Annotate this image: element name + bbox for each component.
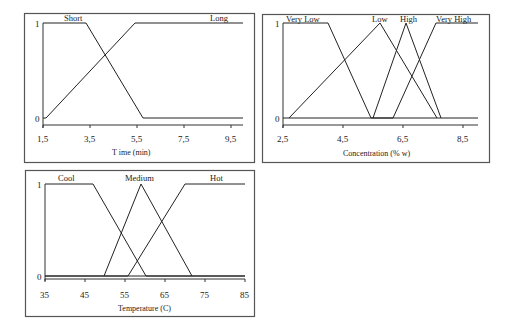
chart-temperature-xtick-label: 45 — [80, 290, 90, 300]
series-very-low — [283, 23, 478, 118]
chart-time-xtick-label: 9,5 — [225, 134, 237, 144]
chart-time-ytick-0: 0 — [35, 114, 40, 124]
chart-temperature-frame — [26, 171, 255, 317]
series-short — [43, 23, 243, 118]
chart-concentration-frame — [263, 15, 490, 163]
label-hot: Hot — [210, 173, 223, 183]
chart-concentration: 1 0 2,5 4,5 6,5 8,5 Concentration (% w) … — [263, 14, 490, 163]
chart-temperature-xtick-label: 85 — [240, 290, 250, 300]
chart-concentration-ytick-0: 0 — [275, 114, 280, 124]
chart-concentration-ytick-1: 1 — [275, 19, 280, 29]
chart-temperature-ytick-1: 1 — [37, 180, 42, 190]
label-medium: Medium — [125, 173, 154, 183]
series-hot — [45, 184, 245, 276]
chart-time-ytick-1: 1 — [35, 19, 40, 29]
chart-temperature-xtick-label: 65 — [160, 290, 170, 300]
chart-temperature-xtick-label: 75 — [200, 290, 210, 300]
series-very-high — [283, 23, 478, 118]
chart-time-xtick-label: 1,5 — [37, 134, 49, 144]
chart-temperature: 1 0 35 45 55 65 75 85 Temperature (C) Co… — [26, 171, 255, 317]
chart-temperature-xtick-label: 55 — [120, 290, 130, 300]
series-medium — [104, 184, 192, 276]
chart-concentration-xlabel: Concentration (% w) — [343, 149, 410, 158]
chart-temperature-xtick-label: 35 — [40, 290, 50, 300]
chart-temperature-ytick-0: 0 — [37, 272, 42, 282]
series-cool — [45, 184, 245, 276]
label-very-high: Very High — [436, 14, 472, 24]
label-long: Long — [210, 13, 229, 23]
chart-concentration-xtick-label: 2,5 — [277, 134, 289, 144]
label-low: Low — [372, 14, 388, 24]
series-long — [43, 23, 243, 118]
chart-temperature-xlabel: Temperature (C) — [118, 304, 171, 313]
fuzzy-membership-figure: 1 0 1,5 3,5 5,5 7,5 9,5 T ime (min) Shor… — [0, 0, 511, 331]
label-cool: Cool — [58, 173, 75, 183]
label-short: Short — [64, 13, 83, 23]
chart-concentration-xtick-label: 4,5 — [337, 134, 349, 144]
chart-time: 1 0 1,5 3,5 5,5 7,5 9,5 T ime (min) Shor… — [25, 13, 255, 163]
chart-time-xtick-label: 3,5 — [84, 134, 96, 144]
chart-time-xtick-label: 5,5 — [131, 134, 143, 144]
label-high: High — [400, 14, 418, 24]
chart-time-xlabel: T ime (min) — [112, 148, 151, 157]
chart-concentration-xtick-label: 8,5 — [457, 134, 469, 144]
label-very-low: Very Low — [286, 14, 321, 24]
series-high — [373, 23, 441, 118]
chart-concentration-xtick-label: 6,5 — [397, 134, 409, 144]
chart-time-xtick-label: 7,5 — [178, 134, 190, 144]
